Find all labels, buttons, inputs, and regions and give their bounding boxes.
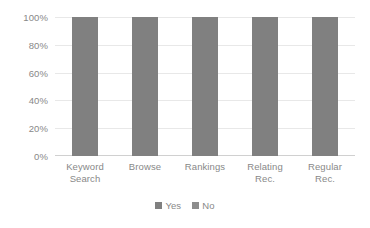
- y-axis-tick-label: 100%: [2, 13, 48, 23]
- x-axis-tick-label: Relating Rec.: [235, 161, 295, 184]
- bar-slot: [175, 17, 235, 156]
- bar-slot: [115, 17, 175, 156]
- x-axis-tick-label: Browse: [115, 161, 175, 173]
- bar-chart: 100% 80% 60% 40% 20% 0% Keyword Search: [0, 0, 370, 228]
- y-axis-tick-label: 0%: [2, 152, 48, 162]
- bar-slot: [55, 17, 115, 156]
- bar-yes-regular-rec: [312, 17, 338, 156]
- plot-area: [55, 17, 355, 156]
- bar-yes-rankings: [192, 17, 218, 156]
- bar-yes-relating-rec: [252, 17, 278, 156]
- bar-slot: [235, 17, 295, 156]
- legend-item-no[interactable]: No: [192, 201, 214, 211]
- legend-swatch-icon: [155, 202, 162, 209]
- legend-item-yes[interactable]: Yes: [155, 201, 181, 211]
- bar-yes-browse: [132, 17, 158, 156]
- bar-yes-keyword-search: [72, 17, 98, 156]
- y-axis-tick-label: 80%: [2, 41, 48, 51]
- x-axis-tick-label: Regular Rec.: [295, 161, 355, 184]
- legend-label: No: [202, 201, 214, 211]
- x-axis-tick-label: Rankings: [175, 161, 235, 173]
- legend-label: Yes: [165, 201, 181, 211]
- legend-swatch-icon: [192, 202, 199, 209]
- y-axis-tick-label: 60%: [2, 69, 48, 79]
- y-axis-tick-label: 20%: [2, 124, 48, 134]
- bar-slot: [295, 17, 355, 156]
- x-axis-tick-label: Keyword Search: [55, 161, 115, 184]
- chart-legend: Yes No: [0, 201, 370, 211]
- y-axis-tick-label: 40%: [2, 96, 48, 106]
